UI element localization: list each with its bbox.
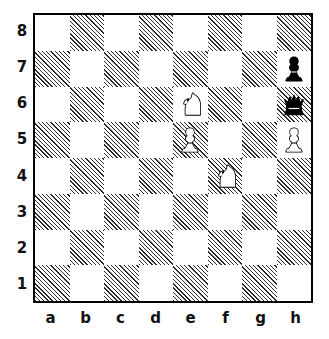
square-b7[interactable] xyxy=(70,51,105,87)
square-b5[interactable] xyxy=(70,122,105,158)
square-h6[interactable] xyxy=(277,87,312,123)
square-d3[interactable] xyxy=(139,194,174,230)
square-h2[interactable] xyxy=(277,230,312,266)
square-h7[interactable] xyxy=(277,51,312,87)
square-e2[interactable] xyxy=(173,230,208,266)
square-g8[interactable] xyxy=(242,15,277,51)
square-f4[interactable] xyxy=(208,158,243,194)
square-g1[interactable] xyxy=(242,265,277,301)
file-label-d: d xyxy=(138,306,173,330)
square-e6[interactable] xyxy=(173,87,208,123)
square-f7[interactable] xyxy=(208,51,243,87)
square-a5[interactable] xyxy=(35,122,70,158)
square-f6[interactable] xyxy=(208,87,243,123)
white-pawn-icon[interactable] xyxy=(277,122,312,158)
square-d1[interactable] xyxy=(139,265,174,301)
square-f3[interactable] xyxy=(208,194,243,230)
square-b3[interactable] xyxy=(70,194,105,230)
square-b6[interactable] xyxy=(70,87,105,123)
square-b8[interactable] xyxy=(70,15,105,51)
square-e5[interactable] xyxy=(173,122,208,158)
rank-label-3: 3 xyxy=(12,194,32,230)
square-c3[interactable] xyxy=(104,194,139,230)
file-label-h: h xyxy=(278,306,313,330)
square-g2[interactable] xyxy=(242,230,277,266)
square-h8[interactable] xyxy=(277,15,312,51)
square-e7[interactable] xyxy=(173,51,208,87)
square-f2[interactable] xyxy=(208,230,243,266)
square-c8[interactable] xyxy=(104,15,139,51)
square-a2[interactable] xyxy=(35,230,70,266)
square-c7[interactable] xyxy=(104,51,139,87)
square-g7[interactable] xyxy=(242,51,277,87)
square-a6[interactable] xyxy=(35,87,70,123)
square-e1[interactable] xyxy=(173,265,208,301)
square-e3[interactable] xyxy=(173,194,208,230)
square-a1[interactable] xyxy=(35,265,70,301)
file-label-c: c xyxy=(103,306,138,330)
square-e8[interactable] xyxy=(173,15,208,51)
square-a7[interactable] xyxy=(35,51,70,87)
square-c4[interactable] xyxy=(104,158,139,194)
rank-label-5: 5 xyxy=(12,122,32,158)
rank-label-column: 8 7 6 5 4 3 2 1 xyxy=(12,13,32,303)
square-a8[interactable] xyxy=(35,15,70,51)
square-c2[interactable] xyxy=(104,230,139,266)
square-e4[interactable] xyxy=(173,158,208,194)
rank-label-8: 8 xyxy=(12,13,32,49)
white-pawn-icon[interactable] xyxy=(173,122,208,158)
square-f1[interactable] xyxy=(208,265,243,301)
square-f8[interactable] xyxy=(208,15,243,51)
black-pawn-icon[interactable] xyxy=(277,51,312,87)
square-d8[interactable] xyxy=(139,15,174,51)
black-queen-icon[interactable] xyxy=(277,87,312,123)
file-label-a: a xyxy=(33,306,68,330)
square-g5[interactable] xyxy=(242,122,277,158)
chess-diagram: 8 7 6 5 4 3 2 1 xyxy=(0,0,329,339)
rank-label-2: 2 xyxy=(12,231,32,267)
square-c1[interactable] xyxy=(104,265,139,301)
square-b2[interactable] xyxy=(70,230,105,266)
rank-label-7: 7 xyxy=(12,49,32,85)
rank-label-4: 4 xyxy=(12,158,32,194)
file-label-g: g xyxy=(243,306,278,330)
square-a4[interactable] xyxy=(35,158,70,194)
rank-label-6: 6 xyxy=(12,86,32,122)
rank-label-1: 1 xyxy=(12,267,32,303)
square-h3[interactable] xyxy=(277,194,312,230)
square-g6[interactable] xyxy=(242,87,277,123)
square-d2[interactable] xyxy=(139,230,174,266)
white-knight-icon[interactable] xyxy=(173,87,208,123)
square-b1[interactable] xyxy=(70,265,105,301)
square-h1[interactable] xyxy=(277,265,312,301)
file-label-e: e xyxy=(173,306,208,330)
square-h4[interactable] xyxy=(277,158,312,194)
square-d4[interactable] xyxy=(139,158,174,194)
file-label-row: a b c d e f g h xyxy=(33,306,313,330)
square-d5[interactable] xyxy=(139,122,174,158)
square-a3[interactable] xyxy=(35,194,70,230)
square-c6[interactable] xyxy=(104,87,139,123)
square-c5[interactable] xyxy=(104,122,139,158)
square-h5[interactable] xyxy=(277,122,312,158)
square-d7[interactable] xyxy=(139,51,174,87)
square-b4[interactable] xyxy=(70,158,105,194)
file-label-b: b xyxy=(68,306,103,330)
square-d6[interactable] xyxy=(139,87,174,123)
chessboard-grid[interactable] xyxy=(33,13,313,303)
white-knight-icon[interactable] xyxy=(208,158,243,194)
square-f5[interactable] xyxy=(208,122,243,158)
file-label-f: f xyxy=(208,306,243,330)
square-g3[interactable] xyxy=(242,194,277,230)
square-g4[interactable] xyxy=(242,158,277,194)
